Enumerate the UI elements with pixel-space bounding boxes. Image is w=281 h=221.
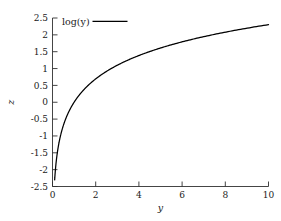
x-axis-title: y [157,202,164,213]
y-tick-label: -1 [39,131,48,141]
chart-figure: 2.5 2 1.5 1 0.5 0 -0.5 -1 -1.5 -2 -2.5 0… [0,0,281,221]
x-tick-label: 8 [222,190,228,200]
y-tick-label: -0.5 [31,114,49,124]
x-tick-label: 6 [179,190,185,200]
x-tick-label: 4 [136,190,142,200]
line-chart: 2.5 2 1.5 1 0.5 0 -0.5 -1 -1.5 -2 -2.5 0… [0,0,281,221]
legend-label: log(y) [62,16,90,27]
y-tick-label: 0 [42,97,48,107]
y-axis-title: z [5,99,16,106]
y-tick-label: 2 [42,30,48,40]
y-tick-label: -2 [39,165,48,175]
y-tick-label: 1 [42,64,48,74]
x-tick-label: 2 [93,190,99,200]
y-tick-label: 0.5 [34,81,49,91]
y-tick-label: 1.5 [34,47,49,57]
y-tick-label: -1.5 [31,148,49,158]
y-tick-label: 2.5 [34,13,49,23]
x-tick-label: 0 [50,190,56,200]
x-tick-label: 10 [263,190,275,200]
y-tick-label: -2.5 [31,182,49,192]
